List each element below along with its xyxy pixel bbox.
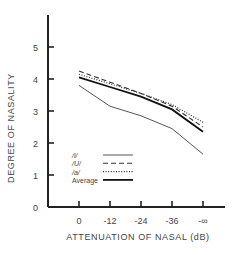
y-tick-label: 4 [33, 75, 38, 85]
x-tick-label: -36 [165, 216, 178, 226]
series-line [79, 77, 203, 131]
legend-label: /a/ [71, 169, 81, 176]
nasality-line-chart: 0123450-12-24-36-∞ /i//U//a/Average DEGR… [0, 0, 248, 255]
x-tick-label: -12 [103, 216, 116, 226]
axes: 0123450-12-24-36-∞ [33, 15, 225, 226]
x-tick-label: 0 [76, 216, 81, 226]
y-tick-label: 5 [33, 43, 38, 53]
y-tick-label: 3 [33, 107, 38, 117]
data-series [79, 71, 203, 154]
y-tick-label: 1 [33, 171, 38, 181]
y-tick-label: 0 [33, 203, 38, 213]
x-tick-label: -24 [134, 216, 147, 226]
x-tick-label: -∞ [198, 216, 207, 226]
legend-label: /i/ [71, 152, 79, 159]
legend: /i//U//a/Average [71, 152, 133, 185]
y-axis-label: DEGREE OF NASALITY [6, 73, 16, 183]
y-tick-label: 2 [33, 139, 38, 149]
x-axis-label: ATTENUATION OF NASAL (dB) [66, 232, 209, 242]
legend-label: Average [72, 177, 98, 185]
legend-label: /U/ [71, 160, 82, 167]
